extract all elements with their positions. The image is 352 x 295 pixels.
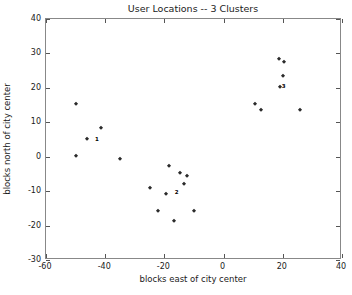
data-point [282, 60, 287, 65]
y-tick-mark [46, 260, 50, 261]
data-point [171, 219, 176, 224]
y-tick-mark-right [336, 122, 340, 123]
x-tick-mark-top [105, 19, 106, 23]
y-axis-label-text: blocks north of city center [2, 83, 12, 195]
y-tick-label: -30 [28, 255, 41, 264]
data-point [178, 171, 183, 176]
x-tick-mark [46, 254, 47, 258]
x-tick-label: -20 [157, 262, 170, 271]
y-tick-mark-right [336, 191, 340, 192]
x-tick-mark [342, 254, 343, 258]
y-tick-mark [46, 226, 50, 227]
data-point [280, 74, 285, 79]
y-tick-mark [46, 53, 50, 54]
page-title: User Locations -- 3 Clusters [45, 3, 341, 15]
data-point [192, 208, 197, 213]
y-tick-label: 30 [31, 48, 41, 57]
data-point [184, 174, 189, 179]
data-point [253, 101, 258, 106]
y-tick-mark [46, 19, 50, 20]
y-tick-mark-right [336, 260, 340, 261]
y-tick-mark [46, 88, 50, 89]
y-tick-label: 20 [31, 82, 41, 91]
x-tick-mark [105, 254, 106, 258]
bottom-artifact-text [0, 288, 352, 295]
figure-canvas: User Locations -- 3 Clusters blocks nort… [0, 0, 352, 295]
y-axis-label: blocks north of city center [0, 18, 14, 259]
x-tick-label: 20 [277, 262, 287, 271]
y-tick-mark [46, 122, 50, 123]
y-tick-mark-right [336, 53, 340, 54]
cluster-label-3: 3 [282, 84, 286, 90]
data-point [276, 57, 281, 62]
data-point [98, 125, 103, 130]
data-point [182, 182, 187, 187]
x-tick-label: -40 [98, 262, 111, 271]
x-tick-mark [164, 254, 165, 258]
x-axis-label: blocks east of city center [45, 274, 341, 284]
x-tick-mark-top [224, 19, 225, 23]
y-tick-label: -20 [28, 220, 41, 229]
y-tick-mark-right [336, 157, 340, 158]
scatter-data-layer: 123 [46, 19, 340, 258]
x-tick-mark [224, 254, 225, 258]
y-tick-mark-right [336, 88, 340, 89]
y-tick-label: 10 [31, 117, 41, 126]
y-tick-mark-right [336, 226, 340, 227]
x-tick-label: 40 [336, 262, 346, 271]
x-tick-label: 0 [220, 262, 225, 271]
data-point [259, 108, 264, 113]
data-point [73, 102, 78, 107]
y-tick-mark [46, 191, 50, 192]
data-point [73, 154, 78, 159]
data-point [164, 191, 169, 196]
x-tick-mark-top [342, 19, 343, 23]
cluster-label-1: 1 [95, 137, 99, 143]
data-point [147, 185, 152, 190]
y-tick-label: 40 [31, 14, 41, 23]
y-tick-label: -10 [28, 186, 41, 195]
data-point [118, 157, 123, 162]
x-tick-mark-top [164, 19, 165, 23]
data-point [166, 164, 171, 169]
plot-area: 123 [45, 18, 341, 259]
cluster-label-2: 2 [175, 190, 179, 196]
x-tick-mark [283, 254, 284, 258]
y-tick-label: 0 [36, 151, 41, 160]
data-point [156, 209, 161, 214]
data-point [84, 136, 89, 141]
y-tick-mark [46, 157, 50, 158]
x-tick-mark-top [283, 19, 284, 23]
y-tick-mark-right [336, 19, 340, 20]
data-point [297, 108, 302, 113]
